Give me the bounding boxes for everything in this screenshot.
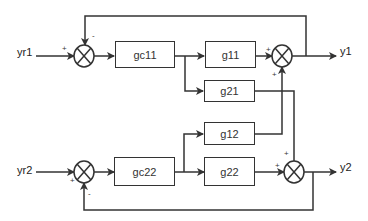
block-g11: g11 xyxy=(205,41,256,68)
sum-junction-4 xyxy=(284,161,304,183)
sign-sum4-cross: + xyxy=(284,150,289,158)
block-g22: g22 xyxy=(204,157,255,186)
block-g21: g21 xyxy=(204,80,255,102)
input-label-yr1: yr1 xyxy=(17,47,32,58)
diagram-wires xyxy=(0,0,368,221)
block-g12: g12 xyxy=(204,122,255,145)
sign-sum2-cross: + xyxy=(272,71,277,79)
wire-gc11-g21 xyxy=(185,56,203,91)
output-label-y2: y2 xyxy=(340,162,352,173)
wire-g12-sum2 xyxy=(255,67,282,134)
sum-junction-3 xyxy=(74,161,94,183)
wire-gc22-g12 xyxy=(184,134,203,172)
sign-sum4-g22: + xyxy=(275,162,280,170)
block-gc22: gc22 xyxy=(114,157,175,186)
sign-sum1-input: + xyxy=(62,45,67,53)
sum-junction-2 xyxy=(272,45,292,67)
input-label-yr2: yr2 xyxy=(17,165,32,176)
wire-g21-sum4 xyxy=(255,91,294,172)
block-gc11: gc11 xyxy=(115,41,175,68)
sign-sum2-g11: + xyxy=(266,46,271,54)
sign-sum1-feedback: - xyxy=(92,32,95,40)
sign-sum3-input: + xyxy=(70,177,75,185)
sum-junction-1 xyxy=(74,45,94,67)
output-label-y1: y1 xyxy=(340,46,352,57)
sign-sum3-feedback: - xyxy=(88,190,91,198)
